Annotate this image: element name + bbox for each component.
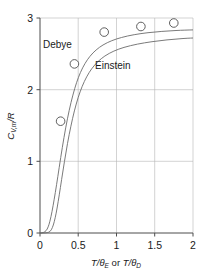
xtick-label-1: 1 [114,239,120,251]
data-point-3 [100,28,109,37]
x-axis-title-part-a: T/θ [91,257,105,268]
data-point-4 [137,22,146,31]
y-axis-title-r: /R [5,112,16,123]
xtick-label-2: 2 [190,239,196,251]
ytick-label-2: 2 [27,84,33,96]
data-point-5 [170,19,179,28]
xtick-label-0p5: 0.5 [71,239,86,251]
ytick-label-3: 3 [27,12,33,24]
annotation-einstein: Einstein [95,60,131,71]
y-axis-title: CV,m/R [5,112,17,140]
y-tick-marks [37,18,41,233]
x-tick-marks [40,233,193,237]
xtick-label-1p5: 1.5 [147,239,162,251]
heat-capacity-chart: 3 2 1 0 0 0.5 1 1.5 2 T/θE or T/θD CV,m/… [0,0,205,278]
x-axis-title-part-b: T/θ [123,257,137,268]
x-axis-title-sub-b: D [136,262,141,269]
y-axis-title-sub: V,m [10,121,17,133]
chart-figure: 3 2 1 0 0 0.5 1 1.5 2 T/θE or T/θD CV,m/… [0,0,205,278]
data-point-1 [56,117,65,126]
xtick-label-0: 0 [37,239,43,251]
x-axis-title: T/θE or T/θD [91,257,141,269]
data-point-2 [70,60,79,69]
x-axis-title-or: or [112,257,120,268]
annotation-debye: Debye [43,39,72,50]
ytick-label-1: 1 [27,155,33,167]
ytick-label-0: 0 [27,227,33,239]
